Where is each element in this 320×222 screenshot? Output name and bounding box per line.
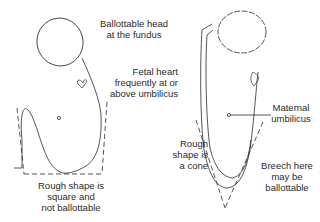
label-square-shape: Rough shape is square and not ballottabl… (26, 180, 116, 213)
fetal-body-outline (14, 58, 101, 173)
fetal-heart-icon (77, 80, 86, 88)
label-fetal-heart: Fetal heart frequently at or above umbil… (96, 66, 178, 99)
maternal-umbilicus-marker (227, 113, 230, 116)
fetal-head-outline-right (218, 11, 266, 53)
uterus-outer-wall (201, 24, 258, 188)
label-cone-shape: Rough shape is a cone (160, 138, 208, 171)
umbilicus-marker (57, 116, 60, 119)
label-maternal-umbilicus: Maternal umbilicus (262, 102, 320, 124)
square-box-left (17, 108, 24, 174)
fetal-head-outline (32, 13, 89, 71)
label-ballottable-head: Ballottable head at the fundus (94, 18, 174, 40)
uterus-inner-wall (206, 30, 251, 178)
label-breech-ballottable: Breech here may be ballottable (256, 160, 318, 193)
square-box-right (102, 102, 107, 174)
